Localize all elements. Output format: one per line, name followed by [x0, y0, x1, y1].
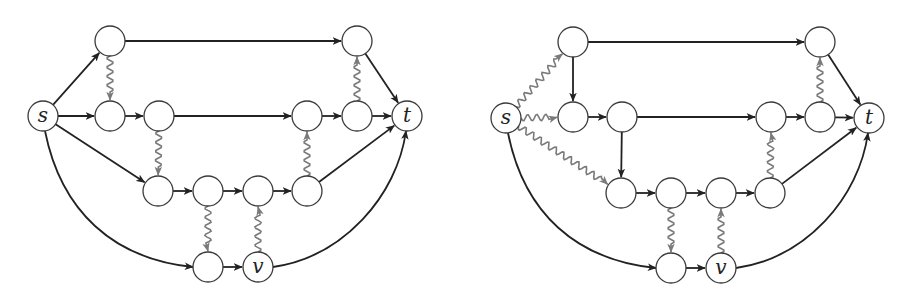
- solid-edge-v-to-t: [736, 133, 868, 268]
- solid-edge-v-to-t: [273, 131, 406, 267]
- wavy-edge-c2-to-d1: [668, 208, 674, 252]
- node-circle: [342, 101, 372, 131]
- wavy-edge-c2-to-d1: [205, 206, 211, 251]
- left-graph-panel: stv: [28, 26, 422, 282]
- node-b1: [95, 101, 125, 131]
- node-a1: [558, 27, 588, 57]
- node-circle: [755, 178, 785, 208]
- node-label: t: [865, 105, 874, 129]
- node-c3: [706, 178, 736, 208]
- node-circle: [193, 176, 223, 206]
- node-circle: [292, 176, 322, 206]
- node-d1: [193, 252, 223, 282]
- solid-edge-a2-to-t: [365, 54, 398, 103]
- node-circle: [193, 252, 223, 282]
- node-circle: [144, 101, 174, 131]
- node-t: t: [392, 101, 422, 131]
- node-v: v: [706, 253, 736, 283]
- wavy-edge-b4-to-a2: [817, 58, 823, 102]
- node-s: s: [28, 101, 58, 131]
- wavy-edge-b2-to-c1: [156, 131, 162, 175]
- node-circle: [656, 178, 686, 208]
- wavy-edge-c4-to-b3: [767, 133, 773, 178]
- node-c4: [292, 176, 322, 206]
- node-c2: [656, 178, 686, 208]
- node-circle: [558, 27, 588, 57]
- node-a1: [95, 26, 125, 56]
- nodes: stv: [28, 26, 422, 282]
- wavy-edge-s-to-c1: [518, 126, 607, 184]
- edges: [508, 42, 868, 268]
- node-label: s: [38, 103, 48, 127]
- node-a2: [805, 27, 835, 57]
- edges: [45, 41, 406, 267]
- wavy-edge-v-to-c3: [255, 207, 261, 252]
- node-a2: [342, 26, 372, 56]
- node-b1: [558, 102, 588, 132]
- node-label: v: [252, 254, 264, 278]
- solid-edge-b2-to-c1: [621, 132, 622, 177]
- node-v: v: [243, 252, 273, 282]
- node-c1: [606, 178, 636, 208]
- node-label: t: [403, 103, 412, 127]
- right-graph-panel: stv: [491, 27, 884, 283]
- node-circle: [805, 27, 835, 57]
- node-circle: [342, 26, 372, 56]
- node-t: t: [854, 103, 884, 133]
- node-circle: [558, 102, 588, 132]
- node-circle: [607, 102, 637, 132]
- node-circle: [706, 178, 736, 208]
- wavy-edge-s-to-b1: [521, 114, 557, 120]
- wavy-edge-v-to-c3: [718, 209, 724, 253]
- solid-edge-s-to-c1: [56, 124, 145, 182]
- node-d1: [656, 253, 686, 283]
- solid-edge-a2-to-t: [828, 55, 860, 105]
- node-c3: [243, 176, 273, 206]
- node-circle: [95, 101, 125, 131]
- solid-edge-c4-to-t: [782, 128, 856, 184]
- node-b2: [607, 102, 637, 132]
- node-circle: [805, 102, 835, 132]
- wavy-edge-c4-to-b3: [304, 132, 310, 176]
- node-circle: [606, 178, 636, 208]
- solid-edge-s-to-a1: [53, 53, 99, 105]
- node-label: s: [501, 105, 511, 129]
- node-s: s: [491, 103, 521, 133]
- node-circle: [756, 102, 786, 132]
- node-circle: [143, 176, 173, 206]
- node-c1: [143, 176, 173, 206]
- wavy-edge-b4-to-a2: [354, 57, 360, 101]
- node-b3: [292, 101, 322, 131]
- flow-network-figure: stv stv: [0, 0, 913, 305]
- node-circle: [292, 101, 322, 131]
- node-c2: [193, 176, 223, 206]
- node-circle: [243, 176, 273, 206]
- node-circle: [656, 253, 686, 283]
- node-circle: [95, 26, 125, 56]
- node-c4: [755, 178, 785, 208]
- node-b2: [144, 101, 174, 131]
- node-b3: [756, 102, 786, 132]
- node-label: v: [715, 255, 727, 279]
- solid-edge-c4-to-t: [319, 126, 394, 182]
- node-b4: [805, 102, 835, 132]
- node-b4: [342, 101, 372, 131]
- wavy-edge-s-to-a1: [516, 54, 563, 108]
- wavy-edge-a1-to-b1: [107, 56, 113, 100]
